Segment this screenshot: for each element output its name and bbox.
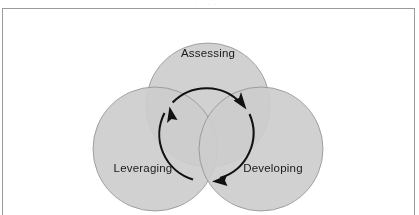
venn-label-developing: Developing (243, 162, 303, 174)
venn-diagram: Assessing Leveraging Developing (3, 9, 414, 215)
scan-edge-text: . . . . . (0, 0, 419, 7)
venn-label-leveraging: Leveraging (114, 162, 173, 174)
venn-circle-developing[interactable] (199, 87, 323, 211)
venn-svg: Assessing Leveraging Developing (3, 9, 414, 215)
figure-frame: Assessing Leveraging Developing (2, 8, 415, 215)
venn-circle-group (93, 43, 323, 211)
venn-circle-leveraging[interactable] (93, 87, 217, 211)
page-canvas: . . . . . (0, 0, 419, 215)
venn-label-assessing: Assessing (181, 47, 235, 59)
